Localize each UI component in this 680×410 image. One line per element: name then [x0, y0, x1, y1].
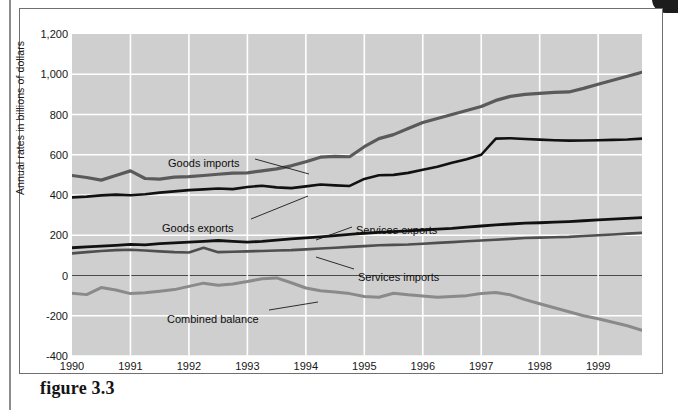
y-axis-tick-label: 200	[24, 229, 68, 241]
y-axis-tick-label: 1,000	[24, 68, 68, 80]
plot-area	[72, 34, 642, 356]
x-axis-tick-label: 1996	[411, 360, 435, 372]
series-label-combined-balance: Combined balance	[167, 313, 259, 325]
x-axis-tick-label: 1990	[60, 360, 84, 372]
x-axis-tick-labels: 1990199119921993199419951996199719981999	[72, 360, 642, 378]
x-axis-tick-label: 1991	[118, 360, 142, 372]
series-label-goods-exports: Goods exports	[162, 222, 234, 234]
series-line-goods-imports	[72, 72, 642, 180]
x-axis-tick-label: 1992	[177, 360, 201, 372]
page-left-rule	[9, 0, 11, 410]
plot-inner	[72, 34, 642, 356]
y-axis-tick-label: 400	[24, 189, 68, 201]
series-line-goods-exports	[72, 138, 642, 197]
y-axis-tick-label: 1,200	[24, 28, 68, 40]
line-chart: Annual rates in billions of dollars 1,20…	[20, 9, 664, 375]
y-axis-tick-label: -200	[24, 310, 68, 322]
chart-svg	[72, 34, 642, 356]
x-axis-tick-label: 1993	[235, 360, 259, 372]
figure-caption: figure 3.3	[40, 378, 115, 399]
x-axis-tick-label: 1994	[294, 360, 318, 372]
y-axis-tick-labels: 1,2001,0008006004002000-200-400	[20, 34, 68, 356]
figure-border: Annual rates in billions of dollars 1,20…	[19, 8, 663, 374]
y-axis-tick-label: 600	[24, 149, 68, 161]
y-axis-tick-label: 0	[24, 270, 68, 282]
series-label-services-imports: Services imports	[358, 271, 439, 283]
series-line-combined-balance	[72, 278, 642, 330]
x-axis-tick-label: 1997	[469, 360, 493, 372]
series-label-goods-imports: Goods imports	[168, 157, 240, 169]
x-axis-tick-label: 1995	[352, 360, 376, 372]
y-axis-tick-label: 800	[24, 109, 68, 121]
series-label-services-exports: Services exports	[356, 224, 437, 236]
x-axis-tick-label: 1999	[586, 360, 610, 372]
x-axis-tick-label: 1998	[527, 360, 551, 372]
figure-page: Annual rates in billions of dollars 1,20…	[0, 0, 680, 410]
